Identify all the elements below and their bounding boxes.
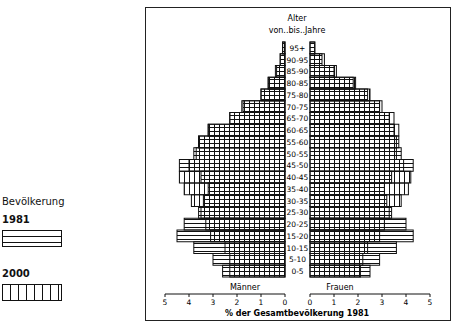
age-row-90-95: 90-95 xyxy=(280,54,324,66)
age-label: 15-20 xyxy=(287,232,309,241)
age-axis-subtitle: von..bis..Jahre xyxy=(269,26,326,35)
bar-frauen-2000 xyxy=(310,207,389,219)
x-tick-label: 2 xyxy=(235,298,240,307)
bar-frauen-2000 xyxy=(310,66,336,78)
age-row-50-55: 50-55 xyxy=(194,148,401,160)
bar-maenner-2000 xyxy=(191,195,285,207)
x-tick-label: 0 xyxy=(308,298,313,307)
age-label: 80-85 xyxy=(287,79,309,88)
population-pyramid: 0-55-1010-1515-2020-2525-3030-3535-4040-… xyxy=(0,0,460,328)
age-row-60-65: 60-65 xyxy=(208,124,399,136)
bar-maenner-2000 xyxy=(208,124,285,136)
age-row-95+: 95+ xyxy=(283,42,315,54)
age-label: 5-10 xyxy=(289,255,306,264)
x-tick-label: 3 xyxy=(211,298,216,307)
age-row-0-5: 0-5 xyxy=(223,265,370,277)
bar-maenner-2000 xyxy=(179,171,285,183)
age-label: 25-30 xyxy=(287,208,309,217)
x-tick-label: 5 xyxy=(428,298,433,307)
bar-maenner-2000 xyxy=(242,101,285,113)
bar-frauen-2000 xyxy=(310,101,382,113)
x-axis-title: % der Gesamtbevölkerung 1981 xyxy=(225,309,370,318)
bar-maenner-2000 xyxy=(196,148,285,160)
bar-maenner-2000 xyxy=(199,136,285,148)
x-tick-label: 1 xyxy=(259,298,264,307)
age-label: 65-70 xyxy=(287,114,309,123)
bar-frauen-2000 xyxy=(310,124,399,136)
age-label: 75-80 xyxy=(287,91,309,100)
age-row-65-70: 65-70 xyxy=(230,113,394,125)
bar-maenner-2000 xyxy=(189,160,285,172)
bar-maenner-2000 xyxy=(283,42,285,54)
age-label: 55-60 xyxy=(287,138,309,147)
bar-frauen-2000 xyxy=(310,242,368,254)
bar-maenner-2000 xyxy=(280,54,285,66)
x-tick-label: 4 xyxy=(187,298,192,307)
age-label: 70-75 xyxy=(287,103,309,112)
bar-frauen-2000 xyxy=(310,230,380,242)
bar-maenner-2000 xyxy=(275,66,285,78)
x-tick-label: 5 xyxy=(163,298,168,307)
age-label: 40-45 xyxy=(287,173,309,182)
age-axis-title: Alter xyxy=(287,14,307,23)
bar-frauen-2000 xyxy=(310,183,408,195)
age-row-5-10: 5-10 xyxy=(213,254,380,266)
frauen-label: Frauen xyxy=(326,283,353,292)
age-label: 85-90 xyxy=(287,67,309,76)
x-tick-label: 3 xyxy=(380,298,385,307)
age-label: 95+ xyxy=(290,44,306,53)
bar-frauen-2000 xyxy=(310,136,396,148)
bar-frauen-2000 xyxy=(310,218,384,230)
bar-frauen-2000 xyxy=(310,148,396,160)
age-row-70-75: 70-75 xyxy=(242,101,382,113)
bar-frauen-2000 xyxy=(310,195,401,207)
bar-maenner-2000 xyxy=(230,113,285,125)
bar-maenner-2000 xyxy=(206,218,285,230)
age-row-35-40: 35-40 xyxy=(184,183,408,195)
bar-frauen-2000 xyxy=(310,254,363,266)
age-row-30-35: 30-35 xyxy=(191,195,401,207)
age-label: 20-25 xyxy=(287,220,309,229)
age-row-10-15: 10-15 xyxy=(194,242,397,254)
age-row-15-20: 15-20 xyxy=(177,230,413,242)
age-row-75-80: 75-80 xyxy=(261,89,370,101)
bar-frauen-2000 xyxy=(310,265,360,277)
x-tick-label: 4 xyxy=(404,298,409,307)
bar-maenner-2000 xyxy=(261,89,285,101)
bar-frauen-2000 xyxy=(310,171,411,183)
age-row-55-60: 55-60 xyxy=(199,136,399,148)
age-label: 50-55 xyxy=(287,150,309,159)
age-label: 45-50 xyxy=(287,161,309,170)
bar-maenner-2000 xyxy=(230,265,285,277)
bar-maenner-2000 xyxy=(184,183,285,195)
bar-frauen-2000 xyxy=(310,42,315,54)
age-label: 10-15 xyxy=(287,244,309,253)
age-row-40-45: 40-45 xyxy=(179,171,410,183)
bar-maenner-2000 xyxy=(230,254,285,266)
age-row-20-25: 20-25 xyxy=(184,218,406,230)
age-row-80-85: 80-85 xyxy=(268,77,355,89)
age-label: 90-95 xyxy=(287,56,309,65)
bar-frauen-2000 xyxy=(310,113,394,125)
bar-maenner-2000 xyxy=(211,230,285,242)
bar-frauen-2000 xyxy=(310,89,370,101)
bar-maenner-2000 xyxy=(225,242,285,254)
age-row-45-50: 45-50 xyxy=(179,160,413,172)
bar-frauen-2000 xyxy=(310,77,356,89)
age-label: 60-65 xyxy=(287,126,309,135)
maenner-label: Männer xyxy=(230,283,261,292)
bar-frauen-2000 xyxy=(310,160,404,172)
age-label: 30-35 xyxy=(287,197,309,206)
bar-maenner-2000 xyxy=(268,77,285,89)
age-row-25-30: 25-30 xyxy=(199,207,392,219)
x-tick-label: 0 xyxy=(283,298,288,307)
age-label: 35-40 xyxy=(287,185,309,194)
x-tick-label: 1 xyxy=(332,298,337,307)
bar-frauen-2000 xyxy=(310,54,324,66)
age-row-85-90: 85-90 xyxy=(275,66,336,78)
age-label: 0-5 xyxy=(291,267,303,276)
bar-maenner-2000 xyxy=(201,207,285,219)
x-tick-label: 2 xyxy=(356,298,361,307)
